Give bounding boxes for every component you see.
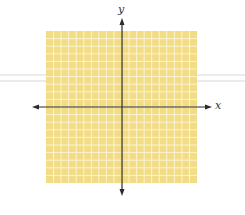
x-axis-label: x: [215, 100, 221, 111]
coordinate-plane: [0, 0, 245, 215]
x-axis-right-arrow-icon: [205, 105, 212, 110]
y-axis-up-arrow-icon: [120, 18, 125, 25]
y-axis-label: y: [118, 4, 124, 15]
y-axis-down-arrow-icon: [120, 189, 125, 196]
x-axis-left-arrow-icon: [32, 105, 39, 110]
